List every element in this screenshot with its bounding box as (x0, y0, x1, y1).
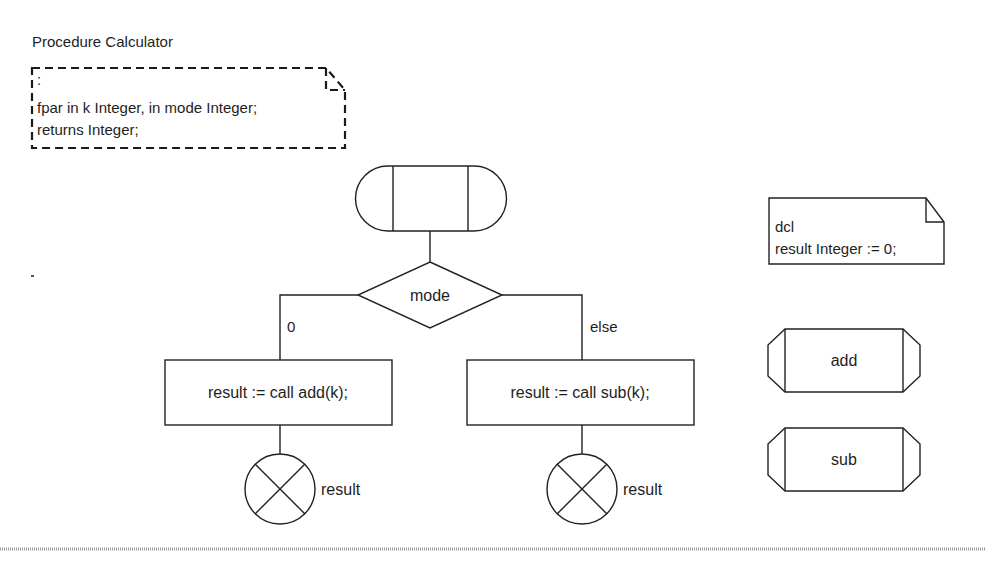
declaration-text-box: dcl result Integer := 0; (769, 198, 944, 264)
procedure-reference-add[interactable]: add (768, 329, 920, 392)
stray-dot (31, 275, 34, 277)
parameters-text-box: : fpar in k Integer, in mode Integer; re… (32, 68, 345, 148)
task-label-sub: result := call sub(k); (510, 384, 649, 401)
procedure-reference-sub[interactable]: sub (768, 428, 920, 491)
diagram-title: Procedure Calculator (32, 33, 173, 50)
task-call-sub[interactable]: result := call sub(k); (467, 360, 694, 425)
procedure-start-symbol[interactable] (356, 166, 507, 231)
task-label-add: result := call add(k); (208, 384, 348, 401)
flow-line-branch-else (502, 295, 582, 360)
return-symbol-left[interactable] (245, 454, 315, 524)
branch-answer-0: 0 (287, 318, 295, 335)
branch-answer-else: else (590, 318, 618, 335)
sdl-procedure-diagram: Procedure Calculator : fpar in k Integer… (0, 0, 985, 562)
return-label-right: result (623, 481, 663, 498)
task-call-add[interactable]: result := call add(k); (165, 360, 392, 425)
parameters-line-3: returns Integer; (37, 121, 139, 138)
declaration-line-1: dcl (775, 218, 794, 235)
decision-label: mode (410, 287, 450, 304)
decision-mode[interactable]: mode (358, 262, 502, 328)
procedure-reference-sub-label: sub (831, 451, 857, 468)
procedure-reference-add-label: add (831, 352, 858, 369)
parameters-line-1: : (37, 71, 41, 88)
return-label-left: result (321, 481, 361, 498)
return-symbol-right[interactable] (547, 454, 617, 524)
parameters-line-2: fpar in k Integer, in mode Integer; (37, 99, 257, 116)
declaration-line-2: result Integer := 0; (775, 240, 896, 257)
